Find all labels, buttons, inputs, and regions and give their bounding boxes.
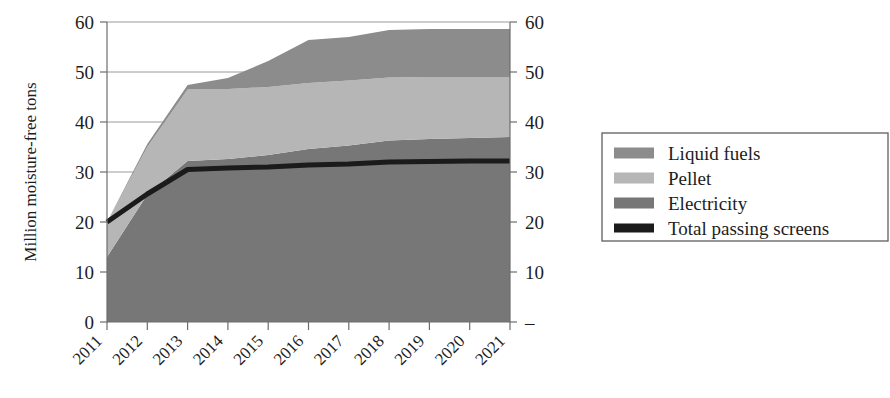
x-axis-label-2018: 2018 [350, 331, 387, 368]
right-tick-label-20: 20 [525, 212, 544, 233]
left-tick-label-10: 10 [75, 262, 94, 283]
x-axis-label-2020: 2020 [431, 331, 468, 368]
x-axis-label-2019: 2019 [391, 331, 428, 368]
right-tick-label-0: – [524, 312, 535, 333]
y-axis-title: Million moisture-free tons [21, 82, 40, 261]
bottom-axis-ticks: 2011201220132014201520162017201820192020… [69, 322, 510, 369]
left-tick-label-40: 40 [75, 112, 94, 133]
x-axis-label-2011: 2011 [69, 331, 106, 368]
left-tick-label-30: 30 [75, 162, 94, 183]
x-axis-label-2015: 2015 [230, 331, 267, 368]
x-axis-label-2016: 2016 [270, 331, 307, 368]
legend-swatch-electricity [614, 198, 654, 209]
right-tick-label-30: 30 [525, 162, 544, 183]
x-axis-label-2014: 2014 [189, 331, 227, 369]
legend-label-pellet: Pellet [668, 168, 712, 189]
left-tick-label-50: 50 [75, 62, 94, 83]
x-axis-label-2012: 2012 [109, 331, 146, 368]
legend-label-electricity: Electricity [668, 193, 748, 214]
legend-label-total-passing-screens: Total passing screens [668, 218, 829, 239]
right-tick-label-60: 60 [525, 12, 544, 33]
legend-swatch-liquid-fuels [614, 148, 654, 159]
right-tick-label-40: 40 [525, 112, 544, 133]
area-chart: 6050403020100 –102030405060 201120122013… [0, 0, 890, 398]
right-axis-ticks: –102030405060 [510, 12, 544, 333]
right-tick-label-10: 10 [525, 262, 544, 283]
legend-label-liquid-fuels: Liquid fuels [668, 143, 760, 164]
legend-swatch-pellet [614, 173, 654, 184]
x-axis-label-2021: 2021 [471, 331, 508, 368]
right-tick-label-50: 50 [525, 62, 544, 83]
left-tick-label-20: 20 [75, 212, 94, 233]
chart-container: 6050403020100 –102030405060 201120122013… [0, 0, 890, 398]
left-tick-label-0: 0 [85, 312, 95, 333]
left-axis-ticks: 6050403020100 [75, 12, 107, 333]
x-axis-label-2017: 2017 [310, 331, 348, 369]
left-tick-label-60: 60 [75, 12, 94, 33]
legend-swatch-total-passing-screens [614, 224, 654, 233]
x-axis-label-2013: 2013 [149, 331, 186, 368]
